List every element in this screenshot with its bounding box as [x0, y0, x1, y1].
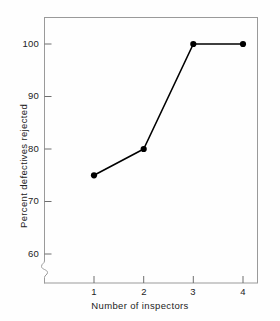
chart-plot-area — [0, 0, 280, 321]
x-axis-title: Number of inspectors — [0, 300, 280, 311]
x-tick-label-3: 3 — [181, 286, 205, 297]
y-tick-label-100: 100 — [6, 38, 39, 49]
y-axis-title: Percent defectives rejected — [18, 104, 29, 228]
data-markers — [91, 41, 246, 179]
figure-container: 100 90 80 70 60 1 2 3 4 Number of inspec… — [0, 0, 280, 321]
y-tick-label-90: 90 — [6, 90, 39, 101]
data-point-2 — [141, 146, 147, 152]
y-tick-marks — [45, 44, 52, 254]
data-point-1 — [91, 172, 97, 178]
x-tick-label-4: 4 — [231, 286, 255, 297]
data-point-4 — [240, 41, 246, 47]
x-tick-label-1: 1 — [82, 286, 106, 297]
y-tick-label-60: 60 — [6, 248, 39, 259]
data-point-3 — [190, 41, 196, 47]
x-tick-marks — [94, 276, 243, 283]
x-tick-label-2: 2 — [132, 286, 156, 297]
data-line-series-1 — [94, 44, 243, 175]
plot-frame — [45, 18, 258, 284]
